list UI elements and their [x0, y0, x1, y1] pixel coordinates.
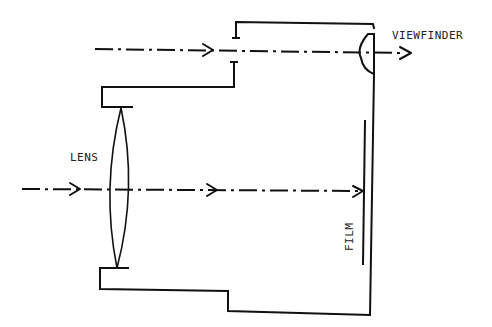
- viewfinder-eyepiece-lens: [360, 34, 374, 74]
- viewfinder-label: VIEWFINDER: [392, 29, 463, 42]
- film-plane: [363, 121, 365, 264]
- camera-body-viewfinder-housing-bottom: [102, 62, 234, 107]
- main-lens: [110, 108, 129, 268]
- viewfinder-ray: [95, 49, 405, 53]
- camera-body-outline: [236, 22, 374, 38]
- lens-label: LENS: [70, 151, 99, 164]
- lens-to-film-ray: [22, 189, 364, 191]
- lens-ray-arrow-in: [70, 183, 80, 195]
- lens-ray-arrow-film: [353, 186, 363, 197]
- viewfinder-ray-arrow-out: [400, 47, 411, 59]
- film-label: FILM: [343, 223, 356, 252]
- camera-body-lens-mount-bottom: [100, 75, 374, 315]
